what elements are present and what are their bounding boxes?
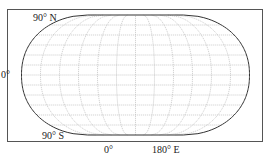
map-graticule [0,0,268,165]
frame-border [8,10,263,142]
label-180-east: 180° E [152,145,180,155]
label-90-south: 90° S [42,131,64,141]
label-equator: 0° [1,70,10,80]
map-figure: 90° N 0° 90° S 0° 180° E [0,0,268,165]
label-90-north: 90° N [33,13,57,23]
graticule-lines [22,15,250,135]
label-prime-meridian: 0° [104,145,113,155]
